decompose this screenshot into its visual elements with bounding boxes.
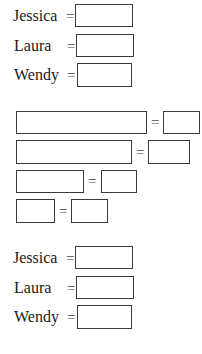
- name-label-laura: Laura: [14, 37, 51, 55]
- equation-right-box[interactable]: [148, 140, 190, 164]
- equation-left-box[interactable]: [16, 199, 55, 223]
- answer-box-wendy[interactable]: [77, 63, 132, 87]
- equals-sign: =: [67, 308, 75, 326]
- name-label-wendy: Wendy: [14, 66, 59, 84]
- equation-left-box[interactable]: [16, 140, 132, 164]
- name-label-laura: Laura: [14, 279, 51, 297]
- equation-left-box[interactable]: [16, 111, 147, 134]
- answer-box-jessica[interactable]: [75, 4, 133, 27]
- equals-sign: =: [67, 66, 75, 84]
- equals-sign: =: [67, 37, 75, 55]
- answer-box-laura[interactable]: [76, 34, 134, 57]
- equals-sign: =: [67, 279, 75, 297]
- equals-sign: =: [136, 143, 144, 161]
- answer-box-jessica[interactable]: [75, 246, 133, 269]
- equals-sign: =: [59, 202, 67, 220]
- equals-sign: =: [151, 113, 159, 131]
- answer-box-laura[interactable]: [76, 276, 134, 299]
- equation-right-box[interactable]: [71, 199, 108, 223]
- equation-left-box[interactable]: [16, 170, 84, 193]
- answer-box-wendy[interactable]: [77, 305, 132, 329]
- equation-right-box[interactable]: [101, 170, 137, 193]
- equals-sign: =: [66, 249, 74, 267]
- name-label-wendy: Wendy: [14, 308, 59, 326]
- equals-sign: =: [88, 172, 96, 190]
- equals-sign: =: [66, 7, 74, 25]
- name-label-jessica: Jessica: [13, 7, 57, 25]
- name-label-jessica: Jessica: [13, 249, 57, 267]
- equation-right-box[interactable]: [163, 111, 200, 134]
